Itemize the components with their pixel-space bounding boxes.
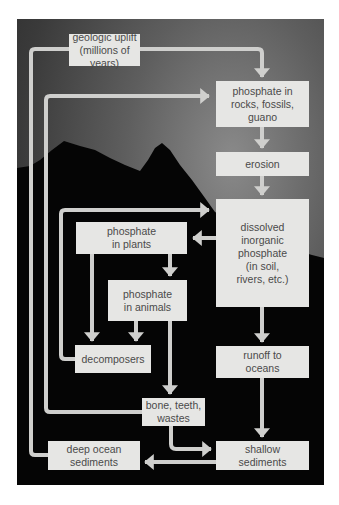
node-shallow-sediments: shallow sediments bbox=[216, 441, 309, 470]
node-decomposers: decomposers bbox=[75, 345, 151, 373]
arrow-uplift-to-rocks bbox=[140, 49, 262, 77]
node-runoff-to-oceans: runoff to oceans bbox=[216, 346, 309, 378]
node-deep-ocean-sediments: deep ocean sediments bbox=[48, 441, 140, 470]
arrow-bone-to-shallow bbox=[171, 426, 211, 449]
node-phosphate-in-plants: phosphate in plants bbox=[76, 222, 187, 254]
node-geologic-uplift: geologic uplift (millions of years) bbox=[69, 34, 140, 66]
node-bone-teeth-wastes: bone, teeth, wastes bbox=[142, 398, 205, 426]
node-dissolved-inorganic-phosphate: dissolved inorganic phosphate (in soil, … bbox=[216, 199, 309, 307]
arrow-deep-to-uplift bbox=[31, 49, 69, 455]
node-erosion: erosion bbox=[216, 152, 309, 176]
node-phosphate-in-rocks: phosphate in rocks, fossils, guano bbox=[216, 81, 309, 127]
node-phosphate-in-animals: phosphate in animals bbox=[108, 280, 187, 321]
